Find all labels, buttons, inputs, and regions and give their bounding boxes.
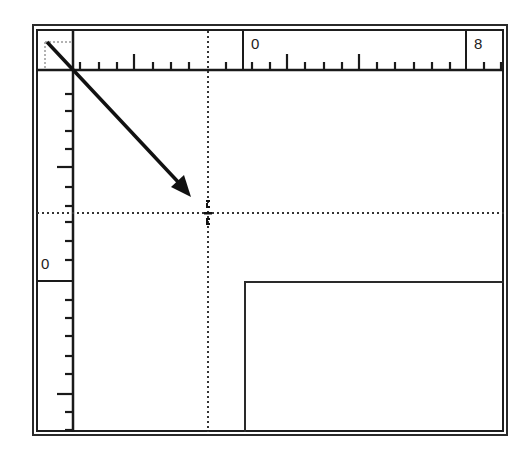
horizontal-ruler-label-8: 8 <box>474 36 482 51</box>
arrow-icon <box>47 42 191 197</box>
page-rectangle <box>245 282 504 432</box>
vertical-ruler[interactable] <box>37 31 73 432</box>
crosshair-cursor-icon <box>204 200 212 225</box>
horizontal-ruler-label-0: 0 <box>251 36 259 51</box>
vertical-ruler-label-0: 0 <box>41 256 49 271</box>
drawing-canvas <box>0 0 532 458</box>
horizontal-ruler[interactable] <box>36 31 504 70</box>
